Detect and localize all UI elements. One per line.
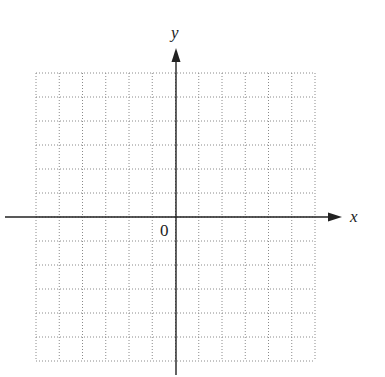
coordinate-plane: x y 0: [0, 0, 385, 377]
y-axis: [172, 48, 181, 375]
origin-label: 0: [160, 221, 169, 240]
y-axis-label: y: [169, 23, 179, 42]
x-axis-arrow-icon: [328, 213, 342, 222]
y-axis-arrow-icon: [172, 48, 181, 62]
x-axis-label: x: [349, 207, 358, 226]
